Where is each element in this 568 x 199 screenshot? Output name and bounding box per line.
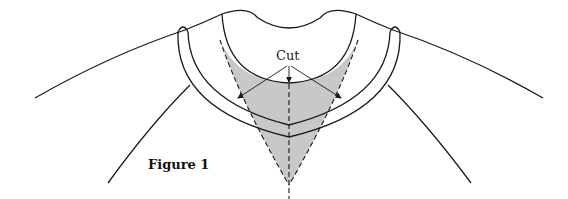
cut-label: Cut [276,49,300,62]
neckline-cut-diagram: Cut Figure 1 [0,0,568,199]
diagram-drawing [0,0,568,199]
figure-caption: Figure 1 [148,158,209,171]
raglan-line-right [388,85,471,183]
